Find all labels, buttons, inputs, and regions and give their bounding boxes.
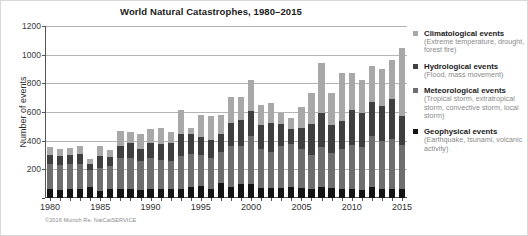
x-tick-mark [80,198,81,201]
bar-segment [359,80,365,113]
bar-segment [339,189,345,198]
bar-segment [127,189,133,198]
x-tick-mark [221,198,222,201]
bar-segment [107,157,113,166]
bar-column [258,105,264,198]
legend-item[interactable]: Meteorological events(Tropical storm, ex… [413,86,527,120]
bar-segment [258,188,264,198]
bar-segment [258,149,264,188]
x-tick-label: 1985 [90,202,110,212]
bar-column [318,63,324,198]
bar-segment [379,141,385,188]
bar-segment [389,60,395,99]
bar-segment [238,97,244,120]
x-tick-mark [372,198,373,201]
bar-segment [359,147,365,190]
bar-segment [288,144,294,187]
bar-column [328,93,334,198]
bar-segment [77,154,83,164]
bar-segment [107,150,113,157]
y-tick-label: 200 [27,164,41,174]
bar-column [268,103,274,198]
bar-segment [278,188,284,198]
bar-segment [298,149,304,188]
x-tick-label: 1990 [141,202,161,212]
bar-column [339,73,345,198]
bar-segment [147,129,153,143]
bar-segment [97,168,103,191]
bar-segment [137,190,143,198]
bar-segment [218,152,224,183]
legend-swatch-hydrological-icon [413,64,418,69]
y-tick-label: 800 [27,78,41,88]
legend-item[interactable]: Geophysical events(Earthquake, tsunami, … [413,127,527,153]
bar-segment [168,143,174,162]
bar-column [349,73,355,198]
x-tick-mark [322,198,323,201]
x-tick-mark [301,198,302,201]
x-tick-label: 2015 [392,202,412,212]
plot-area: 20040060080010001200 [45,26,407,198]
bar-segment [308,189,314,198]
bar-segment [308,155,314,189]
bar-segment [389,139,395,189]
bar-segment [298,188,304,198]
y-tick-label: 1200 [22,21,41,31]
bar-column [47,147,53,198]
chart-legend: Climatological events(Extreme temperatur… [413,29,527,160]
bar-segment [57,149,63,156]
bar-segment [168,189,174,198]
bar-column [248,80,254,198]
bar-segment [268,123,274,152]
y-tick-label: 600 [27,107,41,117]
bar-segment [339,149,345,189]
x-tick-mark [392,198,393,201]
bar-segment [47,189,53,198]
bar-column [288,118,294,198]
x-tick-label: 2010 [342,202,362,212]
bar-column [308,93,314,198]
legend-item[interactable]: Hydrological events(Flood, mass movement… [413,62,527,79]
bar-segment [308,93,314,124]
bar-segment [218,183,224,198]
bar-segment [117,158,123,190]
bar-segment [218,134,224,153]
bar-segment [188,187,194,198]
bar-segment [208,158,214,190]
bar-segment [158,189,164,198]
x-tick-mark [241,198,242,201]
bar-segment [208,189,214,198]
bar-segment [318,187,324,198]
bar-segment [349,110,355,145]
legend-item-description: (Earthquake, tsunami, volcanic activity) [424,136,527,153]
x-tick-label: 1995 [191,202,211,212]
bar-segment [198,155,204,186]
bar-segment [389,189,395,198]
x-tick-mark [281,198,282,201]
x-tick-mark [50,198,51,201]
bar-segment [328,153,334,188]
bar-segment [127,132,133,143]
x-axis-ticks: 19801985199019952000200520102015 [45,198,407,204]
legend-swatch-climatological-icon [413,31,418,36]
bar-segment [47,147,53,155]
bar-segment [228,146,234,186]
bar-segment [77,164,83,190]
x-tick-mark [332,198,333,201]
y-tick-label: 400 [27,136,41,146]
x-tick-mark [211,198,212,201]
legend-item[interactable]: Climatological events(Extreme temperatur… [413,29,527,55]
bar-segment [137,134,143,148]
bar-segment [268,188,274,198]
bar-segment [77,146,83,154]
bar-segment [208,140,214,158]
x-tick-mark [70,198,71,201]
x-tick-mark [231,198,232,201]
bar-segment [147,158,153,189]
bar-segment [87,170,93,187]
bar-segment [117,189,123,198]
chart-figure: World Natural Catastrophes, 1980–2015 Nu… [0,0,528,236]
bar-segment [379,189,385,198]
bar-column [278,113,284,198]
bar-segment [328,93,334,125]
